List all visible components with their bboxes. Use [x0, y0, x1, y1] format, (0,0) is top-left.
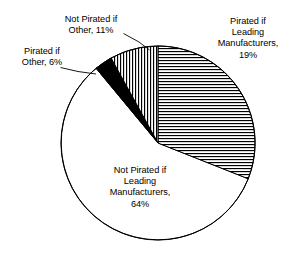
- pie-chart-figure: Pirated if Leading Manufacturers, 19% No…: [0, 0, 303, 259]
- slice-label-not-pirated-leading: Not Pirated if Leading Manufacturers, 64…: [93, 165, 187, 210]
- slice-label-pirated-leading: Pirated if Leading Manufacturers, 19%: [196, 16, 300, 61]
- slice-label-pirated-other: Pirated if Other, 6%: [4, 46, 80, 68]
- slice-label-not-pirated-other: Not Pirated if Other, 11%: [44, 14, 138, 36]
- leader-line-pirated-other: [61, 68, 97, 75]
